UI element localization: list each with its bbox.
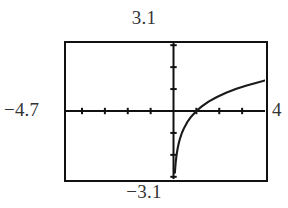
plot-area: [66, 43, 265, 179]
y-max-label: 3.1: [0, 8, 288, 27]
x-min-label: −4.7: [4, 100, 62, 119]
function-curve: [175, 81, 265, 173]
graphing-calculator-screen: 3.1 −4.7 4 −3.1: [0, 0, 288, 208]
plot-frame: [64, 41, 268, 182]
x-max-label: 4: [272, 100, 282, 119]
y-min-label: −3.1: [0, 182, 288, 201]
